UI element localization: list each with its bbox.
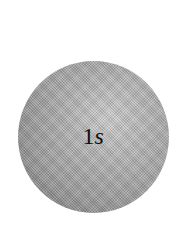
orbital-label-letter: s xyxy=(94,123,103,149)
orbital-label-number: 1 xyxy=(82,123,94,149)
orbital-label: 1s xyxy=(82,123,103,150)
1s-orbital-sphere: 1s xyxy=(18,61,169,213)
diagram-canvas: 1s xyxy=(0,0,182,239)
